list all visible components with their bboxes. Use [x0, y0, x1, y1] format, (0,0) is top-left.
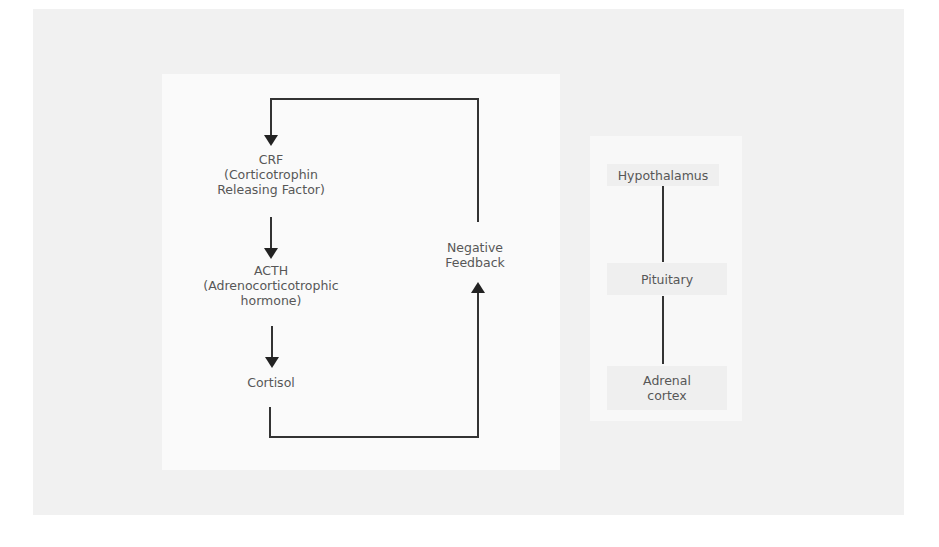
arrow-down-icon	[264, 248, 278, 259]
cortisol-label: Cortisol	[220, 375, 322, 390]
acth-line1: (Adrenocorticotrophic	[190, 278, 352, 293]
crf-title: CRF	[200, 152, 342, 167]
adrenal-line2: cortex	[647, 388, 686, 403]
loop-right-upper-line	[477, 98, 479, 222]
crf-to-acth-line	[270, 217, 272, 249]
crf-label: CRF (Corticotrophin Releasing Factor)	[200, 152, 342, 197]
acth-to-cortisol-line	[271, 326, 273, 358]
pituitary-adrenal-line	[662, 296, 664, 364]
arrow-down-icon	[265, 357, 279, 368]
hypothalamus-label: Hypothalamus	[618, 168, 709, 183]
arrow-up-icon	[471, 282, 485, 293]
cortisol-title: Cortisol	[220, 375, 322, 390]
acth-title: ACTH	[190, 263, 352, 278]
loop-cortisol-down-line	[269, 407, 271, 438]
loop-right-lower-line	[477, 292, 479, 438]
feedback-line2: Feedback	[430, 255, 520, 270]
hypothalamus-box: Hypothalamus	[607, 164, 719, 186]
crf-line1: (Corticotrophin	[200, 167, 342, 182]
pituitary-box: Pituitary	[607, 263, 727, 295]
arrow-down-icon	[264, 135, 278, 146]
loop-top-line	[270, 98, 479, 100]
adrenal-cortex-box: Adrenal cortex	[607, 366, 727, 410]
adrenal-line1: Adrenal	[643, 373, 691, 388]
feedback-line1: Negative	[430, 240, 520, 255]
loop-bottom-line	[269, 436, 479, 438]
acth-label: ACTH (Adrenocorticotrophic hormone)	[190, 263, 352, 308]
loop-left-line	[270, 98, 272, 136]
crf-line2: Releasing Factor)	[200, 182, 342, 197]
negative-feedback-label: Negative Feedback	[430, 240, 520, 270]
pituitary-label: Pituitary	[641, 272, 693, 287]
hypothalamus-pituitary-line	[662, 186, 664, 262]
acth-line2: hormone)	[190, 293, 352, 308]
